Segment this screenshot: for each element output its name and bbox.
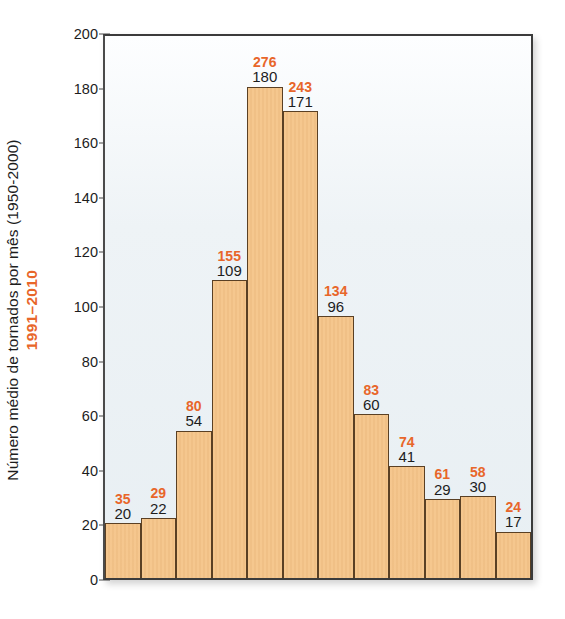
bar-slot: 2417 <box>496 36 532 578</box>
bar-slot: 7441 <box>389 36 425 578</box>
bar-group: 3520292280541551092761802431711349683607… <box>105 36 531 578</box>
tornado-bar-chart: Número médio de tornados por mês (1950-2… <box>0 0 565 619</box>
bar-slot: 3520 <box>105 36 141 578</box>
bar[interactable] <box>460 496 496 578</box>
bar-slot: 8054 <box>176 36 212 578</box>
bar-slot: 6129 <box>425 36 461 578</box>
y-axis-title-line-2: 1991–2010 <box>23 139 41 480</box>
bar-slot: 155109 <box>212 36 248 578</box>
bar[interactable] <box>283 111 319 578</box>
y-axis-tick-label: 60 <box>58 409 98 424</box>
y-axis-tick-label: 160 <box>58 136 98 151</box>
y-axis-tick-label: 20 <box>58 518 98 533</box>
bar[interactable] <box>318 316 354 578</box>
y-axis-title-line-1: Número médio de tornados por mês (1950-2… <box>4 139 22 480</box>
bar-slot: 243171 <box>283 36 319 578</box>
bar[interactable] <box>496 532 532 578</box>
y-axis-tick-label: 40 <box>58 464 98 479</box>
bar-slot: 13496 <box>318 36 354 578</box>
bar[interactable] <box>176 431 212 578</box>
bar[interactable] <box>389 466 425 578</box>
y-axis-tick-label: 100 <box>58 300 98 315</box>
y-axis-tick-label: 180 <box>58 81 98 96</box>
bar[interactable] <box>105 523 141 578</box>
bar-value-labels: 2417 <box>488 500 540 530</box>
bar-slot: 276180 <box>247 36 283 578</box>
bar-slot: 5830 <box>460 36 496 578</box>
y-axis-tick-label: 80 <box>58 354 98 369</box>
y-axis-tick-label: 120 <box>58 245 98 260</box>
bar-slot: 8360 <box>354 36 390 578</box>
y-axis-title: Número médio de tornados por mês (1950-2… <box>0 0 44 619</box>
bar[interactable] <box>212 280 248 578</box>
y-axis-tick-label: 0 <box>58 573 98 588</box>
bar[interactable] <box>247 87 283 578</box>
bar-label-1950-2000: 17 <box>488 514 540 529</box>
bar-label-1991-2010: 24 <box>488 500 540 514</box>
y-axis-tick-label: 200 <box>58 27 98 42</box>
bar[interactable] <box>425 499 461 578</box>
plot-area: 3520292280541551092761802431711349683607… <box>103 34 533 580</box>
y-axis-tick-label: 140 <box>58 191 98 206</box>
bar[interactable] <box>141 518 177 578</box>
y-axis-tick-labels: 200180160140120100806040200 <box>52 0 98 619</box>
bar[interactable] <box>354 414 390 578</box>
bar-slot: 2922 <box>141 36 177 578</box>
